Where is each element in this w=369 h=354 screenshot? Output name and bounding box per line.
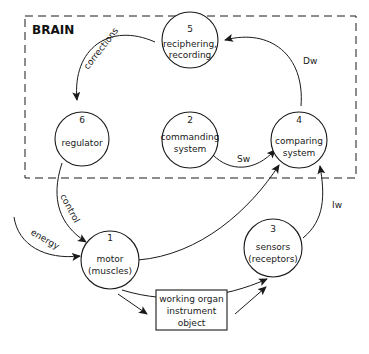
node-label-line1: comparing: [275, 136, 323, 146]
box-label-line1: working organ: [159, 294, 224, 304]
node-label-line1: sensors: [256, 242, 291, 252]
edge-working-organ-to-sensors: [235, 287, 266, 314]
edge-motor-to-working-organ: [118, 294, 147, 314]
node-number: 4: [296, 115, 302, 125]
node-label-line1: commanding: [161, 132, 220, 142]
node-label-line1: reciphering,: [163, 39, 217, 49]
brain-feedback-diagram: BRAIN corrections Dw Sw Iw control energ…: [0, 0, 369, 354]
node-label-line2: system: [283, 148, 316, 158]
edge-iw: [303, 166, 323, 238]
edge-label-dw: Dw: [303, 56, 317, 66]
node-comparing-system: 4 comparing system: [271, 112, 327, 168]
edge-label-corrections: corrections: [82, 25, 121, 71]
box-label-line2: instrument: [167, 306, 217, 316]
node-number: 3: [270, 224, 276, 234]
node-working-organ: working organ instrument object: [156, 290, 227, 330]
node-number: 2: [187, 115, 193, 125]
node-number: 1: [107, 233, 113, 243]
node-label-line2: system: [174, 144, 207, 154]
node-commanding-system: 2 commanding system: [161, 112, 220, 168]
node-label-line1: regulator: [61, 138, 103, 148]
box-label-line3: object: [178, 318, 206, 328]
edge-label-sw: Sw: [237, 154, 250, 164]
node-regulator: 6 regulator: [55, 112, 109, 166]
node-label-line2: (muscles): [88, 266, 132, 276]
edge-dw: [225, 37, 301, 106]
node-sensors-receptors: 3 sensors (receptors): [244, 219, 302, 277]
node-number: 6: [79, 115, 85, 125]
node-number: 5: [187, 24, 193, 34]
edge-label-iw: Iw: [332, 200, 342, 210]
node-label-line2: (receptors): [248, 254, 298, 264]
brain-label: BRAIN: [32, 23, 74, 37]
node-reciphering-recording: 5 reciphering, recording: [162, 12, 218, 68]
edge-label-control: control: [58, 192, 81, 224]
node-motor-muscles: 1 motor (muscles): [81, 231, 139, 289]
node-label-line2: recording: [169, 50, 212, 60]
node-label-line1: motor: [96, 254, 123, 264]
